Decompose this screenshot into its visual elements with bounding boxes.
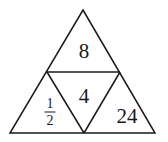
fraction-one-half: 1 2 (45, 97, 56, 128)
fraction-denominator: 2 (46, 113, 55, 128)
triangle-diagram-svg (0, 0, 168, 142)
region-label-bottom-left: 1 2 (45, 97, 56, 128)
region-label-bottom-right: 24 (117, 106, 138, 127)
triangle-figure: 8 4 1 2 24 (0, 0, 168, 142)
region-label-top: 8 (79, 41, 90, 62)
fraction-numerator: 1 (46, 97, 55, 112)
region-label-center: 4 (79, 86, 90, 107)
